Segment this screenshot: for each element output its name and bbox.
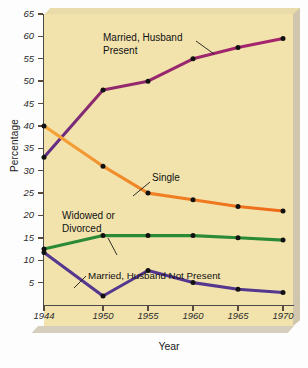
data-point-marker	[236, 235, 241, 240]
series-line	[44, 126, 283, 211]
data-point-marker	[236, 45, 241, 50]
data-point-marker	[146, 79, 151, 84]
ann-single: Single	[152, 172, 180, 185]
ann-married-present: Married, Husband Present	[103, 32, 182, 57]
data-point-marker	[146, 191, 151, 196]
data-point-marker	[281, 208, 286, 213]
data-point-marker	[236, 287, 241, 292]
annotation-leader-line	[196, 41, 214, 54]
data-point-marker	[42, 250, 47, 255]
ann-widowed: Widowed or Divorced	[62, 210, 115, 235]
data-point-marker	[146, 233, 151, 238]
series-line	[44, 236, 283, 249]
chart-figure: 5101520253035404550556065 19441950195519…	[0, 0, 308, 368]
data-point-marker	[281, 36, 286, 41]
data-point-marker	[191, 233, 196, 238]
data-point-marker	[101, 164, 106, 169]
data-point-marker	[101, 294, 106, 299]
data-point-marker	[191, 197, 196, 202]
data-point-marker	[191, 56, 196, 61]
data-point-marker	[42, 123, 47, 128]
data-point-marker	[281, 238, 286, 243]
annotation-leader-line	[108, 238, 117, 255]
data-point-marker	[236, 204, 241, 209]
ann-married-not-present: Married, Husband Not Present	[88, 270, 220, 283]
data-point-marker	[101, 88, 106, 93]
data-point-marker	[42, 155, 47, 160]
data-point-marker	[281, 290, 286, 295]
